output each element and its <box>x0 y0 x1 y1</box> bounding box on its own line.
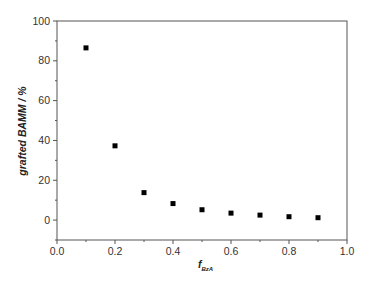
x-tick-label: 0.4 <box>166 245 181 257</box>
x-axis-title-subscript: BzA <box>202 266 214 272</box>
data-point-square <box>113 143 118 148</box>
y-tick-label: 20 <box>38 174 50 186</box>
y-axis-title: grafted BAMM / % <box>16 86 28 177</box>
plot-border <box>57 21 347 240</box>
x-tick-label: 1.0 <box>340 245 355 257</box>
data-points <box>84 45 321 220</box>
scatter-chart: 020406080100 0.00.20.40.60.81.0 grafted … <box>0 0 372 292</box>
y-tick-label: 60 <box>38 94 50 106</box>
data-point-square <box>287 214 292 219</box>
y-tick-label: 40 <box>38 134 50 146</box>
x-tick-label: 0.6 <box>224 245 239 257</box>
data-point-square <box>258 213 263 218</box>
data-point-square <box>229 211 234 216</box>
y-tick-label: 80 <box>38 54 50 66</box>
y-tick-label: 0 <box>44 214 50 226</box>
x-tick-label: 0.0 <box>50 245 65 257</box>
x-tick-label: 0.8 <box>282 245 297 257</box>
y-axis-ticks: 020406080100 <box>32 15 57 241</box>
x-tick-label: 0.2 <box>108 245 123 257</box>
x-axis-ticks: 0.00.20.40.60.81.0 <box>50 240 355 257</box>
data-point-square <box>200 207 205 212</box>
x-axis-title: fBzA <box>198 258 213 272</box>
plot-frame <box>57 21 347 240</box>
y-tick-label: 100 <box>32 15 50 27</box>
data-point-square <box>171 201 176 206</box>
data-point-square <box>316 215 321 220</box>
data-point-square <box>142 190 147 195</box>
data-point-square <box>84 45 89 50</box>
